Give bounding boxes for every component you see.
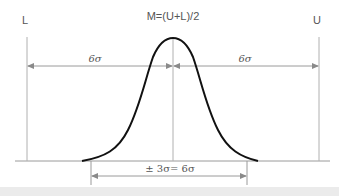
- mean-formula-label: M=(U+L)/2: [147, 10, 200, 22]
- upper-limit-label: U: [313, 14, 321, 26]
- footer-strip: [0, 187, 339, 196]
- right-span-label: 6σ: [238, 53, 252, 64]
- left-span-label: 6σ: [88, 53, 102, 64]
- bell-curve: [82, 38, 258, 161]
- bottom-span-label: ± 3σ= 6σ: [145, 163, 195, 174]
- lower-limit-label: L: [22, 14, 28, 26]
- normal-distribution-diagram: L U M=(U+L)/2 6σ 6σ ± 3σ= 6σ: [0, 0, 339, 196]
